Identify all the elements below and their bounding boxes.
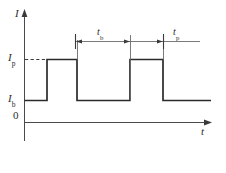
waveform-svg [0, 0, 226, 173]
dimension-tb-left-arrowhead [76, 39, 82, 43]
x-axis-label: t [201, 126, 204, 137]
y-axis-label-text: I [15, 7, 19, 19]
pulse-waveform-figure: I Ip Ib 0 t tb tp [0, 0, 226, 173]
dimension-label-tb-subscript: b [100, 34, 103, 41]
x-axis-arrowhead [204, 120, 212, 126]
y-tick-label-background-current: Ib [8, 93, 15, 107]
dimension-label-base-time: tb [97, 27, 103, 40]
dimension-tb-right-arrowhead [124, 39, 130, 43]
y-axis [22, 9, 28, 141]
y-tick-label-base-subscript: b [12, 100, 16, 109]
origin-label-text: 0 [13, 109, 19, 121]
y-tick-label-peak-current: Ip [8, 52, 15, 66]
origin-label: 0 [13, 110, 19, 121]
dimension-label-peak-time: tp [173, 27, 179, 40]
dimension-label-tp-subscript: p [176, 34, 179, 41]
y-tick-label-peak-subscript: p [12, 59, 16, 68]
y-axis-label: I [15, 8, 19, 19]
x-axis-label-text: t [201, 125, 204, 137]
dimension-leader-lines [78, 35, 164, 101]
current-waveform-trace [25, 60, 212, 101]
x-axis [25, 120, 213, 126]
dimension-tp [131, 34, 200, 49]
dimension-tp-left-arrowhead [157, 39, 163, 43]
y-axis-arrowhead [22, 9, 28, 17]
